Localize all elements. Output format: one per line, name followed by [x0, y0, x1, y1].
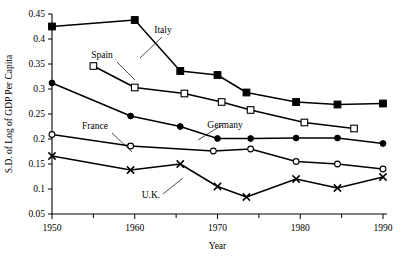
data-point	[90, 63, 97, 70]
data-point	[214, 183, 221, 190]
line-chart: ItalySpainFranceGermanyU.K. 0.050.10.150…	[0, 0, 403, 264]
x-tick-label: 1970	[208, 223, 227, 233]
x-axis-title: Year	[209, 241, 227, 251]
leader-line	[117, 62, 135, 80]
data-point	[243, 89, 250, 96]
data-point	[247, 107, 254, 114]
data-point	[248, 146, 254, 152]
data-point	[128, 143, 134, 149]
data-point	[49, 23, 56, 30]
data-point	[210, 148, 216, 154]
x-tick-label: 1950	[43, 223, 62, 233]
data-point	[214, 72, 221, 79]
annotation-france: France	[82, 121, 132, 152]
data-point	[215, 136, 221, 142]
data-point	[301, 119, 308, 126]
data-point	[293, 159, 299, 165]
data-point	[293, 99, 300, 106]
data-point	[351, 125, 358, 132]
data-point	[49, 132, 55, 138]
data-point	[380, 141, 386, 147]
data-point	[334, 101, 341, 108]
series-u-k-	[48, 152, 386, 200]
series-germany	[49, 80, 386, 146]
data-point	[380, 166, 386, 172]
data-point	[177, 68, 184, 75]
data-point	[243, 193, 250, 200]
series-label: Italy	[154, 25, 172, 35]
data-point	[131, 17, 138, 24]
data-point	[49, 80, 55, 86]
y-axis-title: S.D. of Log of GDP Per Capita	[4, 54, 14, 173]
series-label: France	[82, 121, 108, 131]
y-tick-label: 0.35	[28, 59, 45, 69]
y-tick-label: 0.45	[28, 9, 45, 19]
y-tick-label: 0.4	[33, 34, 45, 44]
data-point	[380, 100, 387, 107]
series-italy	[49, 17, 387, 108]
data-point	[181, 90, 188, 97]
data-point	[335, 135, 341, 141]
data-point	[131, 84, 138, 91]
y-tick-label: 0.1	[33, 184, 45, 194]
y-tick-label: 0.25	[28, 109, 45, 119]
series-line	[52, 156, 383, 197]
series-group	[48, 17, 386, 201]
series-label: U.K.	[142, 190, 160, 200]
series-label: Germany	[207, 120, 243, 130]
annotation-u-k-: U.K.	[142, 178, 183, 200]
leader-line	[163, 178, 183, 194]
data-point	[248, 136, 254, 142]
y-tick-label: 0.2	[33, 134, 45, 144]
x-tick-label: 1980	[291, 223, 310, 233]
leader-line	[112, 133, 132, 152]
y-tick-label: 0.05	[28, 209, 45, 219]
x-tick-label: 1990	[374, 223, 393, 233]
data-point	[177, 124, 183, 130]
chart-container: ItalySpainFranceGermanyU.K. 0.050.10.150…	[0, 0, 403, 264]
y-tick-label: 0.3	[33, 84, 45, 94]
series-label: Spain	[91, 50, 113, 60]
data-point	[335, 161, 341, 167]
data-point	[293, 135, 299, 141]
series-line	[52, 83, 383, 144]
series-line	[52, 20, 383, 105]
axis-labels-group: 0.050.10.150.20.250.30.350.40.4519501960…	[4, 9, 393, 251]
data-point	[128, 113, 134, 119]
data-point	[218, 99, 225, 106]
y-tick-label: 0.15	[28, 159, 45, 169]
annotation-italy: Italy	[140, 25, 172, 58]
x-tick-label: 1960	[125, 223, 144, 233]
